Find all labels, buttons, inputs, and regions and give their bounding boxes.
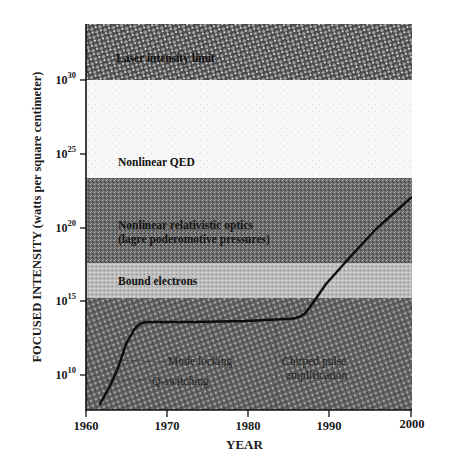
xtick-1970: 1970: [147, 419, 187, 434]
y-axis-label: FOCUSED INTENSITY (watts per square cent…: [30, 71, 45, 362]
xtick-1990: 1990: [309, 419, 349, 434]
xtick-1960: 1960: [66, 419, 106, 434]
xtick-2000: 2000: [392, 417, 432, 432]
x-axis-label: YEAR: [226, 437, 263, 453]
chart: Laser intensity limit Nonlinear QED Nonl…: [0, 0, 449, 471]
xtick-1980: 1980: [228, 419, 268, 434]
ytick-1e10: 1010: [32, 365, 76, 383]
